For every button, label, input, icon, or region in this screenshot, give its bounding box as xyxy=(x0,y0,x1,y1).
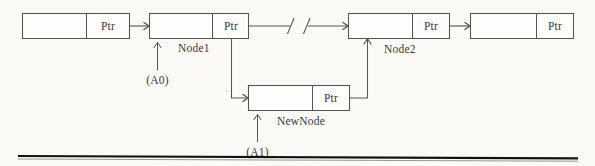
link-newnode-to-node2 xyxy=(350,39,372,98)
tail-node-ptr-label: Ptr xyxy=(548,20,562,32)
diagram-canvas: Ptr Ptr Node1 (A0) xyxy=(0,0,595,166)
node-node1: Ptr xyxy=(150,14,249,39)
node-head: Ptr xyxy=(23,14,130,39)
newnode-name-label: NewNode xyxy=(277,115,325,127)
link-node1-to-node2-elided xyxy=(249,18,349,34)
link-node1-to-newnode-path xyxy=(232,39,248,99)
scan-speck xyxy=(226,90,228,92)
node-node2: Ptr xyxy=(349,14,450,39)
link-head-to-node1 xyxy=(130,22,150,30)
node-newnode: Ptr xyxy=(249,86,350,111)
bottom-rule xyxy=(18,156,578,158)
link-newnode-to-node2-path xyxy=(350,40,368,99)
node-tail: Ptr xyxy=(471,14,574,39)
node1-address-pointer: (A0) xyxy=(146,42,169,86)
node2-name-label: Node2 xyxy=(384,43,416,55)
node1-address-label: (A0) xyxy=(146,74,169,87)
bottom-rule-shadow xyxy=(18,159,578,161)
node1-name-label: Node1 xyxy=(178,42,210,54)
bottom-rule-group xyxy=(18,156,578,161)
link-node2-to-tail xyxy=(450,22,471,30)
node1-ptr-label: Ptr xyxy=(224,20,238,32)
newnode-ptr-label: Ptr xyxy=(324,92,338,104)
head-node-ptr-label: Ptr xyxy=(101,20,115,32)
newnode-address-pointer: (A1) xyxy=(246,114,269,158)
link-node1-to-newnode xyxy=(232,39,249,102)
node2-ptr-label: Ptr xyxy=(424,20,438,32)
linked-list-diagram: Ptr Ptr Node1 (A0) xyxy=(0,0,595,166)
